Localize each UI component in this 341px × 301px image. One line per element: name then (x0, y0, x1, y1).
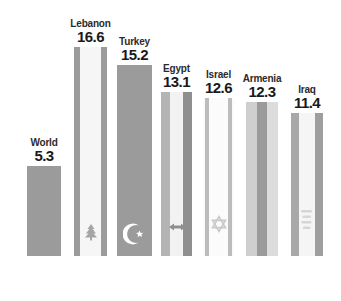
flag-stripe (315, 113, 323, 256)
bar-label-block: Israel12.6 (205, 70, 232, 98)
bar-label-block: Egypt13.1 (163, 64, 190, 92)
value-label: 13.1 (163, 74, 190, 89)
flag-stripe (267, 102, 278, 256)
flag-stripe (257, 102, 268, 256)
bar-israel (203, 98, 234, 256)
bar-label-block: Armenia12.3 (243, 74, 282, 102)
bar-turkey (117, 65, 152, 256)
flag-stripe (117, 65, 152, 256)
value-label: 11.4 (294, 95, 320, 110)
flag-stripe (27, 166, 61, 256)
bar-armenia (246, 102, 278, 256)
flag-stripe (183, 92, 192, 256)
value-label: 15.2 (119, 47, 150, 62)
value-label: 12.6 (205, 80, 232, 95)
bar-world (27, 166, 61, 256)
bar-label-block: Iraq11.4 (294, 85, 320, 113)
bar-group-lebanon: Lebanon16.6 (74, 47, 107, 256)
bar-chart: World5.3Lebanon16.6Turkey15.2Egypt13.1Is… (0, 0, 341, 301)
value-label: 12.3 (243, 84, 282, 99)
bar-label-block: Lebanon16.6 (70, 19, 110, 47)
bar-group-armenia: Armenia12.3 (246, 102, 278, 256)
bar-label-block: World5.3 (30, 138, 57, 166)
bar-iraq (291, 113, 323, 256)
bar-egypt (161, 92, 192, 256)
bar-lebanon (74, 47, 107, 256)
flag-stripe (205, 98, 209, 256)
bar-group-turkey: Turkey15.2 (117, 65, 152, 256)
value-label: 16.6 (70, 29, 110, 44)
flag-stripe (161, 92, 170, 256)
flag-stripe (246, 102, 257, 256)
bar-label-block: Turkey15.2 (119, 37, 150, 65)
bar-group-egypt: Egypt13.1 (161, 92, 192, 256)
flag-stripe (291, 113, 299, 256)
flag-stripe (74, 47, 80, 256)
bar-group-iraq: Iraq11.4 (291, 113, 323, 256)
flag-stripe (228, 98, 232, 256)
bar-group-world: World5.3 (27, 166, 61, 256)
value-label: 5.3 (30, 148, 57, 163)
bar-group-israel: Israel12.6 (203, 98, 234, 256)
flag-stripe (101, 47, 107, 256)
